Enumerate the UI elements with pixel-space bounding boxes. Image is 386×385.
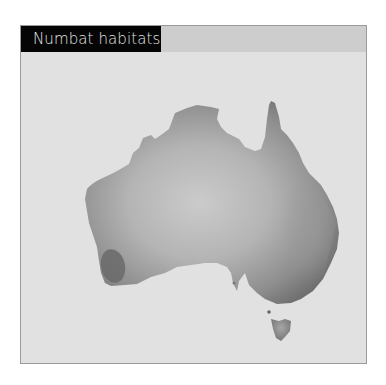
- tasmania: [271, 319, 291, 341]
- bass-strait-island: [267, 310, 271, 314]
- figure-frame: Numbat habitats: [20, 25, 367, 364]
- kangaroo-island: [233, 282, 236, 285]
- mainland-east-shading: [241, 141, 337, 301]
- australia-map: [21, 26, 368, 365]
